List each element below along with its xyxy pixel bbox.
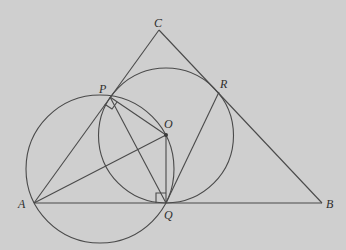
label-a: A [17, 197, 26, 211]
label-p: P [98, 82, 107, 96]
point-o-dot [164, 133, 168, 137]
label-r: R [219, 77, 228, 91]
diagram-svg: C A B P O Q R [0, 0, 346, 250]
segment-po [110, 97, 166, 135]
segment-ao [34, 135, 166, 203]
segment-pq [110, 97, 166, 203]
segment-bc [159, 30, 322, 203]
label-c: C [154, 16, 163, 30]
label-o: O [164, 117, 173, 131]
label-q: Q [164, 208, 173, 222]
geometry-diagram: C A B P O Q R [0, 0, 346, 250]
segment-ca [34, 30, 159, 203]
label-b: B [326, 197, 334, 211]
